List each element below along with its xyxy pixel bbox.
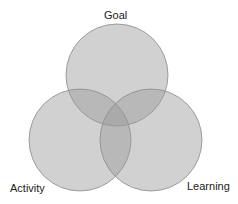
label-activity: Activity <box>10 182 45 194</box>
label-goal: Goal <box>104 9 127 21</box>
circle-learning <box>100 89 202 191</box>
venn-diagram <box>0 0 238 204</box>
label-learning: Learning <box>187 180 230 192</box>
